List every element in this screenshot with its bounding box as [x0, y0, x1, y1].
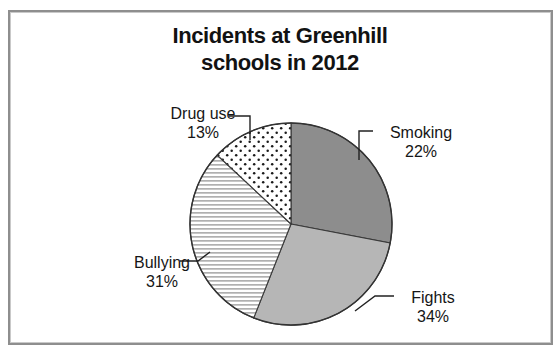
- leader-line-fights: [355, 296, 394, 311]
- chart-screenshot: Incidents at Greenhill schools in 2012: [0, 0, 560, 358]
- slice-label-smoking-name: Smoking: [390, 124, 452, 141]
- slice-label-bullying-name: Bullying: [134, 254, 190, 271]
- slice-label-bullying-percent: 31%: [118, 272, 206, 291]
- slice-label-smoking: Smoking 22%: [377, 123, 465, 161]
- slice-label-bullying: Bullying 31%: [118, 253, 206, 291]
- slice-label-drug-use: Drug use 13%: [160, 104, 246, 142]
- slice-label-drug-use-percent: 13%: [160, 123, 246, 142]
- slice-label-fights: Fights 34%: [397, 288, 469, 326]
- slice-label-fights-name: Fights: [411, 289, 455, 306]
- slice-label-smoking-percent: 22%: [377, 142, 465, 161]
- pie-chart: [0, 0, 560, 358]
- slice-label-fights-percent: 34%: [397, 307, 469, 326]
- slice-label-drug-use-name: Drug use: [171, 105, 236, 122]
